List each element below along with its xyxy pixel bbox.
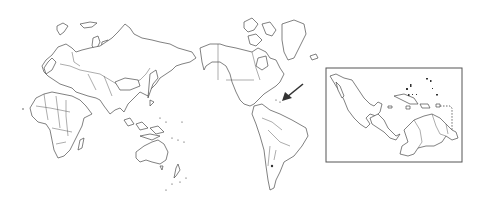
africa (22, 92, 92, 158)
world-map (0, 0, 486, 199)
oceania (136, 140, 187, 191)
inset-map (326, 68, 462, 162)
south-america (252, 99, 308, 190)
north-america (200, 18, 318, 106)
location-arrow (282, 84, 303, 101)
